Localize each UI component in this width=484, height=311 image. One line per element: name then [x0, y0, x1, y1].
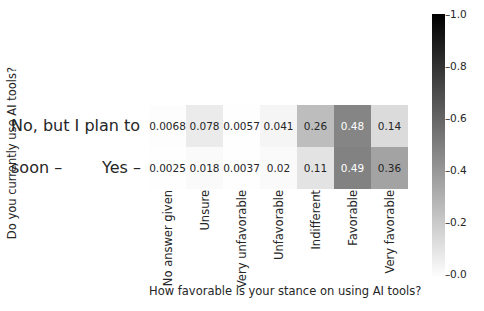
colorbar-tick: –1.0 — [445, 8, 467, 20]
x-tick-label: – Very unfavorable — [223, 190, 260, 282]
x-tick-label: – Favorable — [334, 190, 371, 282]
heatmap-cell: 0.078 — [186, 105, 223, 147]
colorbar-tick: –0.6 — [445, 112, 467, 124]
x-tick-label: – No answer given — [149, 190, 186, 282]
y-tick-label: No, but I plan to soon – — [11, 105, 141, 147]
heatmap-cell: 0.26 — [297, 105, 334, 147]
heatmap-cell: 0.018 — [186, 147, 223, 189]
heatmap-cell: 0.0025 — [149, 147, 186, 189]
colorbar-tick-labels: –1.0 –0.8 –0.6 –0.4 –0.2 –0.0 — [445, 14, 484, 278]
x-tick-label: – Very favorable — [371, 190, 408, 282]
colorbar-tick: –0.4 — [445, 164, 467, 176]
x-tick-label: – Unsure — [186, 190, 223, 282]
heatmap-grid: 0.0068 0.078 0.0057 0.041 0.26 0.48 0.14… — [149, 105, 408, 189]
x-tick-label-text: Unfavorable — [272, 190, 286, 260]
heatmap-row: 0.0068 0.078 0.0057 0.041 0.26 0.48 0.14 — [149, 105, 408, 147]
heatmap-cell: 0.36 — [371, 147, 408, 189]
heatmap-cell: 0.49 — [334, 147, 371, 189]
x-tick-label: – Unfavorable — [260, 190, 297, 282]
heatmap-cell: 0.0057 — [223, 105, 260, 147]
heatmap-row: 0.0025 0.018 0.0037 0.02 0.11 0.49 0.36 — [149, 147, 408, 189]
colorbar-tick-text: 0.4 — [450, 164, 467, 176]
heatmap-cell: 0.0037 — [223, 147, 260, 189]
heatmap-cell: 0.11 — [297, 147, 334, 189]
x-tick-label: – Indifferent — [297, 190, 334, 282]
y-axis-tick-labels: No, but I plan to soon – Yes – — [11, 105, 149, 189]
heatmap-cell: 0.48 — [334, 105, 371, 147]
colorbar-tick-text: 0.0 — [450, 268, 467, 280]
x-axis-title: How favorable is your stance on using AI… — [149, 284, 408, 298]
y-tick-label-text: Yes — [102, 158, 128, 177]
heatmap-cell: 0.14 — [371, 105, 408, 147]
colorbar-gradient — [432, 14, 445, 278]
colorbar-tick-text: 0.8 — [450, 60, 467, 72]
x-tick-label-text: Indifferent — [309, 190, 323, 250]
colorbar-tick-text: 0.2 — [450, 216, 467, 228]
colorbar-tick-text: 1.0 — [450, 8, 467, 20]
x-tick-label-text: Favorable — [346, 190, 360, 246]
heatmap-cell: 0.0068 — [149, 105, 186, 147]
heatmap-cell: 0.041 — [260, 105, 297, 147]
y-tick-dash: – — [133, 158, 141, 177]
x-axis-tick-labels: – No answer given – Unsure – Very unfavo… — [149, 190, 408, 282]
colorbar-tick: –0.8 — [445, 60, 467, 72]
y-tick-label: Yes – — [102, 147, 141, 189]
x-tick-label-text: Unsure — [198, 190, 212, 231]
x-tick-label-text: Very unfavorable — [235, 190, 249, 288]
colorbar-tick: –0.2 — [445, 216, 467, 228]
x-tick-label-text: Very favorable — [383, 190, 397, 274]
heatmap-cell: 0.02 — [260, 147, 297, 189]
colorbar-tick-text: 0.6 — [450, 112, 467, 124]
colorbar-tick: –0.0 — [445, 268, 467, 280]
x-tick-label-text: No answer given — [161, 190, 175, 286]
y-tick-dash: – — [54, 158, 62, 177]
